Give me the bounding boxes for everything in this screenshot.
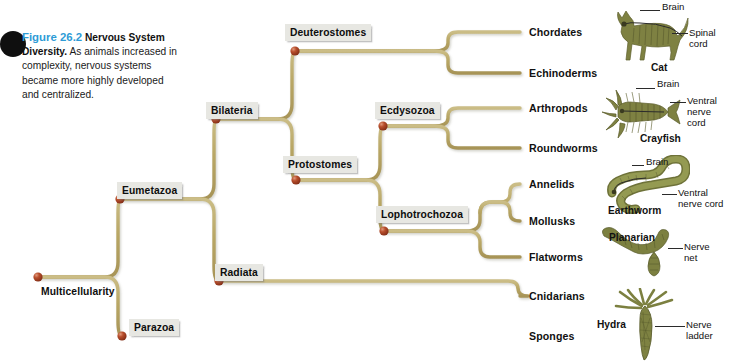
annotation-earthworm-brain: Brain bbox=[646, 157, 668, 168]
organism-name-hydra: Hydra bbox=[597, 319, 626, 330]
planarian-illustration bbox=[598, 222, 688, 282]
node-label-bilateria: Bilateria bbox=[206, 102, 258, 119]
annotation-earthworm-ventral-nerve-cord: Ventral nerve cord bbox=[678, 188, 723, 210]
leader-cat-spinal-cord bbox=[672, 33, 688, 34]
cat-illustration bbox=[600, 4, 690, 66]
organism-name-earthworm: Earthworm bbox=[608, 205, 661, 216]
node-label-protostomes: Protostomes bbox=[283, 156, 357, 173]
annotation-cat-brain: Brain bbox=[662, 2, 684, 13]
taxon-label-annelids: Annelids bbox=[529, 178, 575, 190]
figure-canvas: Figure 26.2 Nervous System Diversity. As… bbox=[0, 0, 740, 362]
node-marker-ecdysozoa bbox=[378, 121, 387, 130]
taxon-label-chordates: Chordates bbox=[529, 26, 582, 38]
node-label-multicellularity: Multicellularity bbox=[36, 283, 120, 300]
leader-crayfish-ventral bbox=[670, 102, 686, 103]
node-label-ecdysozoa: Ecdysozoa bbox=[375, 102, 440, 119]
leader-hydra-nerve-net bbox=[655, 326, 685, 327]
taxon-label-arthropods: Arthropods bbox=[529, 102, 588, 114]
annotation-planarian-nerve-ladder: Nerve net bbox=[684, 242, 710, 264]
annotation-cat-spinal-cord: Spinal cord bbox=[689, 28, 716, 50]
leader-cat-brain bbox=[640, 10, 660, 11]
node-label-deuterostomes: Deuterostomes bbox=[285, 24, 371, 41]
taxon-label-sponges: Sponges bbox=[529, 330, 574, 342]
leader-earthworm-ventral bbox=[662, 194, 677, 195]
organism-name-planarian: Planarian bbox=[609, 232, 655, 243]
node-label-lophotrochozoa: Lophotrochozoa bbox=[376, 206, 468, 223]
leader-crayfish-brain bbox=[636, 88, 655, 89]
leader-earthworm-brain bbox=[632, 165, 644, 166]
node-marker-protostomes bbox=[291, 175, 300, 184]
node-label-parazoa: Parazoa bbox=[129, 319, 179, 336]
node-marker-deuterostomes bbox=[290, 46, 299, 55]
node-label-eumetazoa: Eumetazoa bbox=[117, 182, 182, 199]
annotation-crayfish-ventral-nerve-cord: Ventral nerve cord bbox=[687, 96, 717, 128]
taxon-label-echinoderms: Echinoderms bbox=[529, 67, 597, 79]
node-marker-parazoa bbox=[117, 331, 126, 340]
organism-name-crayfish: Crayfish bbox=[640, 133, 681, 144]
taxon-label-mollusks: Mollusks bbox=[529, 215, 575, 227]
organism-name-cat: Cat bbox=[651, 62, 667, 73]
node-marker-multicellularity bbox=[33, 272, 42, 281]
taxon-label-flatworms: Flatworms bbox=[529, 251, 583, 263]
node-label-radiata: Radiata bbox=[215, 264, 263, 281]
leader-planarian-nerve-ladder bbox=[668, 248, 683, 249]
annotation-crayfish-brain: Brain bbox=[657, 79, 679, 90]
taxon-label-roundworms: Roundworms bbox=[529, 142, 598, 154]
taxon-label-cnidarians: Cnidarians bbox=[529, 290, 585, 302]
node-marker-lophotrochozoa bbox=[379, 226, 388, 235]
annotation-hydra-nerve-net: Nerve ladder bbox=[686, 320, 713, 342]
